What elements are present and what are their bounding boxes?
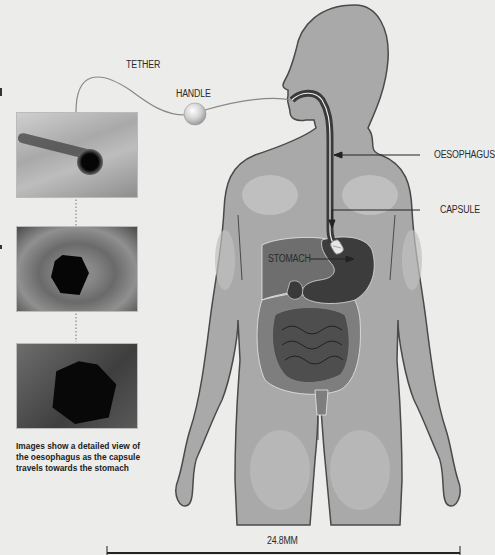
endoscopy-image-2 (16, 226, 138, 312)
endoscopy-image-1 (16, 112, 138, 198)
scale-bar (107, 546, 460, 555)
label-oesophagus: OESOPHAGUS (434, 149, 495, 160)
endoscopy-image-3 (16, 343, 138, 429)
label-capsule: CAPSULE (440, 204, 480, 215)
photo-caption: Images show a detailed view of the oesop… (16, 440, 148, 473)
handle-icon (184, 103, 206, 125)
edge-mark (0, 245, 2, 249)
label-tether: TETHER (126, 59, 160, 70)
label-stomach: STOMACH (268, 253, 311, 264)
label-handle: HANDLE (176, 88, 211, 99)
label-scale: 24.8MM (267, 535, 298, 546)
tether-line (76, 77, 185, 115)
edge-mark (0, 88, 2, 96)
